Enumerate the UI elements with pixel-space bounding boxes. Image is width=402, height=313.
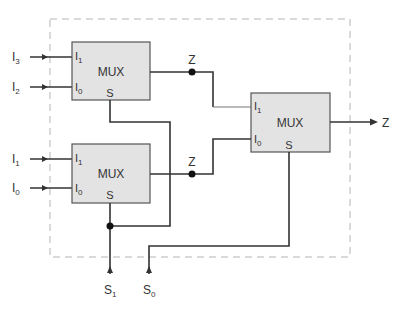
- svg-text:MUX: MUX: [98, 65, 125, 79]
- junction-dot: [189, 171, 196, 178]
- svg-text:MUX: MUX: [98, 167, 125, 181]
- wire-select-s0: [146, 152, 289, 274]
- wire-top-output: [150, 69, 251, 108]
- junction-dot: [189, 69, 196, 76]
- mux-top: MUX I1 I0 S: [72, 42, 150, 100]
- mux-final: MUX I1 I0 S: [251, 93, 330, 152]
- input-label-i1: I1: [12, 152, 20, 168]
- intermediate-output-label-top: Z: [188, 53, 195, 67]
- intermediate-output-label-bottom: Z: [188, 155, 195, 169]
- mux-bottom: MUX I1 I0 S: [72, 144, 150, 203]
- wire-final-output: [330, 119, 378, 126]
- svg-text:S: S: [106, 189, 113, 201]
- junction-dot: [107, 223, 114, 230]
- svg-text:S: S: [106, 87, 113, 99]
- select-label-s0: S0: [143, 283, 156, 299]
- mux-diagram: I3 I2 I1 I0 MUX I1 I0 S MUX I1 I0 S MUX …: [0, 0, 402, 313]
- output-label: Z: [382, 116, 389, 130]
- input-label-i2: I2: [12, 80, 20, 96]
- input-label-i0: I0: [12, 181, 20, 197]
- wire-bottom-output: [150, 139, 251, 178]
- input-label-i3: I3: [12, 50, 20, 66]
- svg-text:S: S: [285, 139, 292, 151]
- input-wires: [30, 54, 72, 191]
- svg-text:MUX: MUX: [277, 116, 304, 130]
- select-label-s1: S1: [104, 283, 117, 299]
